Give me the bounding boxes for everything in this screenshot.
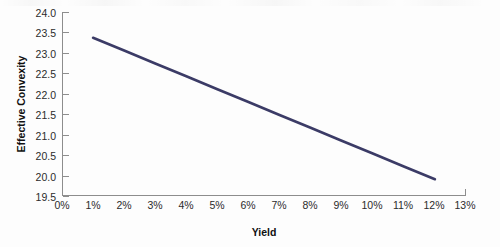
y-tick-label: 23.5 [12,28,56,39]
x-axis-title: Yield [252,226,277,238]
y-tick-label: 22.0 [12,90,56,101]
y-tick-label: 20.0 [12,172,56,183]
plot-area [62,12,466,196]
x-tick-label: 13% [445,200,485,211]
axis-cap-right [465,189,466,196]
y-tick-label: 23.0 [12,49,56,60]
y-tick-label: 21.5 [12,110,56,121]
y-tick-label: 21.0 [12,131,56,142]
effective-convexity-chart: Effective Convexity 24.0 23.5 23.0 22.5 … [0,0,500,247]
y-tick-mark [63,196,69,197]
scan-artifact [0,0,500,6]
y-tick-label: 20.5 [12,151,56,162]
y-tick-label: 22.5 [12,69,56,80]
y-tick-label: 24.0 [12,8,56,19]
axis-cap-top [62,12,69,13]
